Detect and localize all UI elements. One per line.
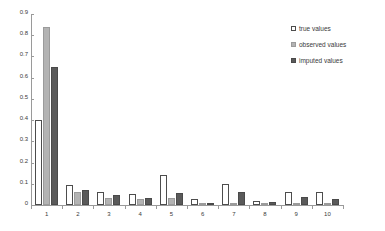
bar	[269, 202, 276, 205]
y-axis-tick-label: 0.9	[20, 9, 28, 15]
bar	[160, 175, 167, 205]
bar	[137, 199, 144, 205]
x-axis-tick-mark	[62, 205, 63, 209]
x-axis-tick-mark	[156, 205, 157, 209]
legend-swatch-imputed-icon	[291, 58, 296, 63]
bar	[301, 197, 308, 205]
legend-item[interactable]: observed values	[291, 36, 383, 52]
bar	[51, 67, 58, 205]
y-axis-tick-label: 0.7	[20, 51, 28, 57]
x-axis-tick-mark	[93, 205, 94, 209]
x-axis-tick-label: 8	[253, 211, 277, 218]
bar	[176, 193, 183, 205]
bar	[324, 203, 331, 205]
x-axis-tick-mark	[187, 205, 188, 209]
bar	[207, 203, 214, 205]
legend-item-label: observed values	[299, 41, 346, 48]
legend-item[interactable]: true values	[291, 20, 383, 36]
x-axis-tick-label: 3	[97, 211, 121, 218]
y-axis-tick-label: 0.3	[20, 136, 28, 142]
x-axis-tick-mark	[281, 205, 282, 209]
bar	[97, 192, 104, 205]
y-axis-tick-label: 0.4	[20, 115, 28, 121]
legend-item[interactable]: imputed values	[291, 52, 383, 68]
x-axis-tick-mark	[343, 205, 344, 209]
legend-item-label: imputed values	[299, 57, 343, 64]
bar	[145, 198, 152, 205]
x-axis-tick-mark	[31, 205, 32, 209]
bar	[191, 199, 198, 205]
bar	[316, 192, 323, 205]
bar	[82, 190, 89, 205]
legend-swatch-observed-icon	[291, 42, 296, 47]
y-axis-tick-label: 0.2	[20, 158, 28, 164]
bar	[43, 27, 50, 205]
bar	[332, 199, 339, 205]
y-axis-tick-label: 0.5	[20, 94, 28, 100]
bar	[285, 192, 292, 205]
bar	[35, 120, 42, 205]
bar	[168, 198, 175, 205]
legend-swatch-true-icon	[291, 26, 296, 31]
x-axis-tick-label: 1	[35, 211, 59, 218]
bar	[261, 203, 268, 205]
x-axis-tick-label: 4	[128, 211, 152, 218]
y-axis-tick-label: 0.6	[20, 73, 28, 79]
bar	[66, 185, 73, 205]
x-axis-tick-label: 10	[315, 211, 339, 218]
x-axis-tick-label: 6	[191, 211, 215, 218]
bar	[199, 203, 206, 205]
bar	[113, 195, 120, 205]
x-axis-tick-mark	[249, 205, 250, 209]
x-axis-tick-label: 9	[284, 211, 308, 218]
y-axis-tick-label: 0	[25, 200, 28, 206]
x-axis-tick-mark	[312, 205, 313, 209]
x-axis-tick-label: 7	[222, 211, 246, 218]
x-axis-tick-mark	[125, 205, 126, 209]
x-axis-tick-label: 2	[66, 211, 90, 218]
chart-legend: true valuesobserved valuesimputed values	[291, 20, 383, 68]
bar	[129, 194, 136, 205]
bar	[105, 198, 112, 205]
bar	[238, 192, 245, 205]
bar	[222, 184, 229, 205]
x-axis-tick-mark	[218, 205, 219, 209]
bar	[74, 192, 81, 205]
bar	[253, 201, 260, 205]
bar-chart-figure: 00.10.20.30.40.50.60.70.80.9 12345678910…	[0, 0, 385, 231]
plot-area	[31, 14, 271, 205]
bar	[293, 203, 300, 205]
x-axis-tick-label: 5	[159, 211, 183, 218]
legend-item-label: true values	[299, 25, 331, 32]
y-axis-tick-label: 0.8	[20, 30, 28, 36]
bar	[230, 203, 237, 205]
y-axis-tick-label: 0.1	[20, 179, 28, 185]
